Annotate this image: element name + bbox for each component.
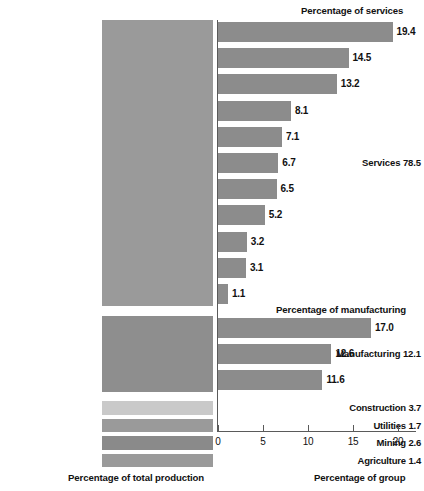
category-label-services-7: Information xyxy=(315,210,420,221)
solo-bar-utilities xyxy=(102,419,213,433)
category-label-services-9: Accommodation and food services xyxy=(315,257,420,278)
bar-manufacturing-2 xyxy=(218,370,322,390)
bar-services-9 xyxy=(218,258,246,278)
left-axis-title: Percentage of total production xyxy=(68,472,204,483)
bar-value-services-8: 3.2 xyxy=(251,236,264,247)
right-axis-title: Percentage of group xyxy=(314,472,405,483)
bar-value-services-7: 5.2 xyxy=(269,209,282,220)
x-axis-tick-label-0: 0 xyxy=(215,436,220,447)
bar-value-manufacturing-2: 11.6 xyxy=(326,374,344,385)
x-axis-tick-label-2: 10 xyxy=(303,436,314,447)
solo-bar-construction xyxy=(102,401,213,415)
group-total-services: Services 78.5 xyxy=(324,157,424,168)
bar-chart-figure: Healthcare19.4Real estate14.5Professiona… xyxy=(0,0,424,491)
bar-services-1 xyxy=(218,48,349,68)
bar-value-services-9: 3.1 xyxy=(250,262,263,273)
solo-bar-mining xyxy=(102,436,213,450)
bar-manufacturing-0 xyxy=(218,318,371,338)
x-axis-line xyxy=(217,431,416,432)
bar-services-0 xyxy=(218,22,393,42)
section-header-services: Percentage of services xyxy=(301,5,403,16)
manufacturing-category-block xyxy=(102,316,213,392)
bar-services-4 xyxy=(218,127,282,147)
solo-bar-agriculture xyxy=(102,454,213,468)
solo-label-utilities: Utilities 1.7 xyxy=(324,420,424,431)
group-total-manufacturing: Manufacturing 12.1 xyxy=(324,348,424,359)
bar-services-10 xyxy=(218,284,228,304)
bar-value-services-5: 6.7 xyxy=(282,157,295,168)
x-axis-tick-2 xyxy=(308,425,309,432)
bar-value-manufacturing-0: 17.0 xyxy=(375,322,394,333)
section-header-manufacturing: Percentage of manufacturing xyxy=(276,304,406,315)
category-label-services-8: Transportation xyxy=(315,236,420,247)
category-label-services-4: Education xyxy=(315,131,420,142)
bar-value-services-2: 13.2 xyxy=(341,78,360,89)
x-axis-tick-0 xyxy=(218,425,219,432)
bar-manufacturing-1 xyxy=(218,344,331,364)
x-axis-tick-1 xyxy=(263,425,264,432)
category-label-services-10: Arts, entertainment, and recreation xyxy=(315,283,420,304)
y-axis-line xyxy=(217,20,218,431)
x-axis-tick-4 xyxy=(398,425,399,432)
solo-label-agriculture: Agriculture 1.4 xyxy=(324,455,424,466)
bar-services-3 xyxy=(218,101,291,121)
bar-services-7 xyxy=(218,205,265,225)
services-category-block xyxy=(102,20,213,306)
x-axis-tick-3 xyxy=(353,425,354,432)
x-axis-tick-label-3: 15 xyxy=(348,436,359,447)
bar-services-8 xyxy=(218,232,247,252)
category-label-services-6: Retail trade xyxy=(315,183,420,194)
bar-value-services-10: 1.1 xyxy=(232,288,245,299)
x-axis-tick-label-1: 5 xyxy=(260,436,265,447)
bar-value-services-0: 19.4 xyxy=(397,26,416,37)
bar-value-services-1: 14.5 xyxy=(353,52,372,63)
bar-value-services-4: 7.1 xyxy=(286,131,299,142)
bar-services-5 xyxy=(218,153,278,173)
solo-label-mining: Mining 2.6 xyxy=(324,437,424,448)
x-axis-tick-label-4: 20 xyxy=(393,436,404,447)
bar-services-6 xyxy=(218,179,277,199)
bar-value-services-6: 6.5 xyxy=(281,183,294,194)
bar-value-services-3: 8.1 xyxy=(295,105,308,116)
solo-label-construction: Construction 3.7 xyxy=(324,402,424,413)
category-label-services-3: Finance and insurance xyxy=(315,105,420,116)
bar-services-2 xyxy=(218,74,337,94)
